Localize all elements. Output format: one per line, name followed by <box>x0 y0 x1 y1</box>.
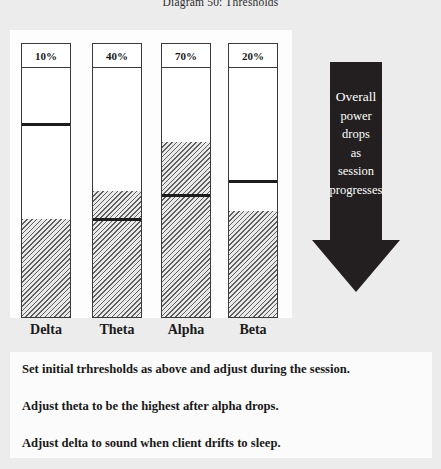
band-label-alpha: Alpha <box>161 322 211 338</box>
threshold-line-beta[interactable] <box>229 180 277 183</box>
down-arrow-annotation: Overall power drops as session progresse… <box>306 62 406 294</box>
diagram-page: Diagram 50: Thresholds 10% 40% 70% <box>0 0 441 469</box>
note-line-1: Set initial trhresholds as above and adj… <box>22 362 420 377</box>
arrow-caption-line-3: drops <box>324 125 388 144</box>
band-label-beta: Beta <box>228 322 278 338</box>
band-label-theta: Theta <box>92 322 142 338</box>
band-label-row: Delta Theta Alpha Beta <box>10 322 300 346</box>
bar-percent-label-beta: 20% <box>229 44 277 68</box>
bar-beta[interactable]: 20% <box>228 43 278 318</box>
bar-alpha[interactable]: 70% <box>161 43 211 318</box>
arrow-caption-line-6: progresses <box>324 181 388 200</box>
bar-percent-label-alpha: 70% <box>162 44 210 68</box>
bar-fill-delta <box>22 219 70 317</box>
threshold-line-theta[interactable] <box>93 218 141 221</box>
note-line-2: Adjust theta to be the highest after alp… <box>22 399 420 414</box>
threshold-chart-panel: 10% 40% 70% 20% <box>10 30 292 318</box>
page-title: Diagram 50: Thresholds <box>0 0 441 8</box>
bar-fill-theta <box>93 191 141 317</box>
band-label-delta: Delta <box>21 322 71 338</box>
threshold-line-alpha[interactable] <box>162 194 210 197</box>
bar-theta[interactable]: 40% <box>92 43 142 318</box>
arrow-caption-line-4: as <box>324 144 388 163</box>
bar-percent-label-theta: 40% <box>93 44 141 68</box>
threshold-line-delta[interactable] <box>22 123 70 126</box>
bar-delta[interactable]: 10% <box>21 43 71 318</box>
note-line-3: Adjust delta to sound when client drifts… <box>22 436 420 451</box>
arrow-caption-line-1: Overall <box>324 88 388 107</box>
down-arrow-caption: Overall power drops as session progresse… <box>324 88 388 199</box>
notes-panel: Set initial trhresholds as above and adj… <box>10 352 432 458</box>
bar-fill-beta <box>229 211 277 317</box>
arrow-caption-line-2: power <box>324 107 388 126</box>
arrow-caption-line-5: session <box>324 162 388 181</box>
bar-percent-label-delta: 10% <box>22 44 70 68</box>
bar-fill-alpha <box>162 142 210 317</box>
